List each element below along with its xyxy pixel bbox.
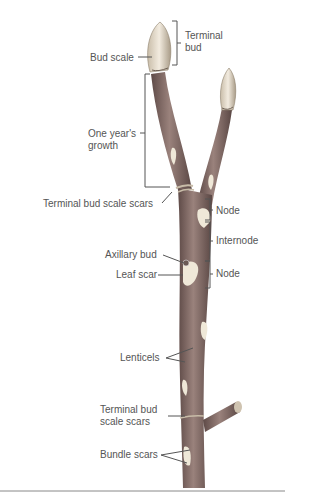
main-stem <box>178 188 212 488</box>
label-terminal-bud-1: Terminal <box>185 30 223 42</box>
left-branch <box>151 72 192 190</box>
label-node-bottom: Node <box>216 268 240 280</box>
lateral-terminal-bud <box>220 68 235 110</box>
right-branch <box>198 108 232 205</box>
label-one-years-growth-2: growth <box>88 140 118 152</box>
label-internode: Internode <box>216 235 258 247</box>
label-terminal-bud-2: bud <box>185 42 202 54</box>
label-lenticels: Lenticels <box>120 352 159 364</box>
label-node-top: Node <box>216 205 240 217</box>
label-terminal-bud-scale-scars-bottom-1: Terminal bud <box>100 404 157 416</box>
label-bundle-scars: Bundle scars <box>100 449 158 461</box>
label-terminal-bud-scale-scars-top: Terminal bud scale scars <box>43 198 153 210</box>
label-one-years-growth-1: One year's <box>88 128 136 140</box>
label-leaf-scar: Leaf scar <box>116 269 157 281</box>
label-axillary-bud: Axillary bud <box>105 249 157 261</box>
terminal-bud <box>148 22 171 72</box>
label-terminal-bud-scale-scars-bottom-2: scale scars <box>100 416 150 428</box>
label-bud-scale: Bud scale <box>90 52 134 64</box>
